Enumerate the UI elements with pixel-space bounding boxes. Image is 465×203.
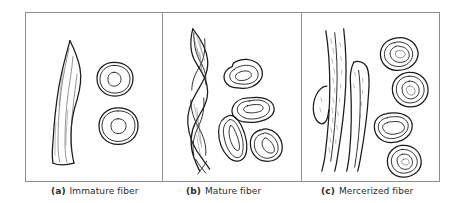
mature-fiber-drawing xyxy=(163,13,301,181)
caption-tag-c: (c) xyxy=(321,186,335,196)
panel-immature-fiber xyxy=(26,13,162,181)
caption-mercerized-fiber: (c)Mercerized fiber xyxy=(321,186,413,196)
mature-longitudinal-fiber xyxy=(188,29,210,174)
mature-cross-section-4 xyxy=(250,129,282,161)
mercerized-fiber-drawing xyxy=(302,13,441,181)
mature-cross-section-2 xyxy=(232,97,274,122)
figure-captions: (a)Immature fiber (b)Mature fiber (c)Mer… xyxy=(25,186,440,201)
immature-cross-section-2 xyxy=(99,108,138,145)
mercerized-longitudinal-fiber xyxy=(313,29,369,171)
mercerized-cross-section-3 xyxy=(374,113,412,143)
mercerized-cross-section-1 xyxy=(380,38,418,71)
figure-plate xyxy=(25,12,440,182)
immature-cross-section-1 xyxy=(97,62,133,96)
mercerized-cross-section-2 xyxy=(392,72,428,107)
caption-text-a: Immature fiber xyxy=(70,186,139,196)
caption-mature-fiber: (b)Mature fiber xyxy=(186,186,261,196)
caption-text-c: Mercerized fiber xyxy=(339,186,414,196)
immature-fiber-drawing xyxy=(26,13,162,181)
figure-root: (a)Immature fiber (b)Mature fiber (c)Mer… xyxy=(0,0,465,203)
caption-tag-a: (a) xyxy=(51,186,66,196)
mature-cross-section-1 xyxy=(224,59,262,88)
caption-immature-fiber: (a)Immature fiber xyxy=(51,186,138,196)
caption-text-b: Mature fiber xyxy=(205,186,261,196)
mercerized-cross-section-4 xyxy=(387,145,421,177)
panel-mature-fiber xyxy=(162,13,301,181)
immature-longitudinal-fiber xyxy=(52,41,81,165)
caption-tag-b: (b) xyxy=(186,186,201,196)
panel-mercerized-fiber xyxy=(301,13,441,181)
